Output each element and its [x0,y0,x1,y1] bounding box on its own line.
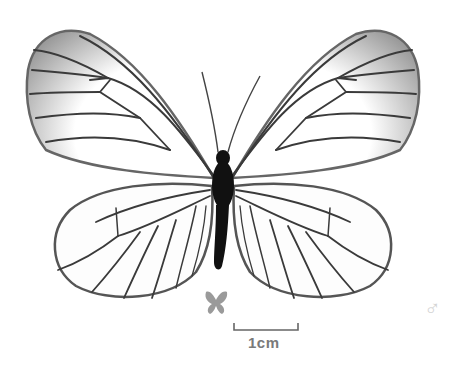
right-hindwing [234,184,392,298]
left-forewing [27,31,214,178]
right-forewing [232,31,419,178]
left-hindwing [55,184,213,298]
butterfly-body [212,150,234,269]
small-butterfly-icon [205,292,227,314]
scale-bar [234,323,298,330]
scale-bar-label: 1cm [248,334,280,351]
antennae [202,72,260,152]
male-symbol-icon: ♂ [424,296,441,322]
butterfly-illustration [0,0,452,381]
